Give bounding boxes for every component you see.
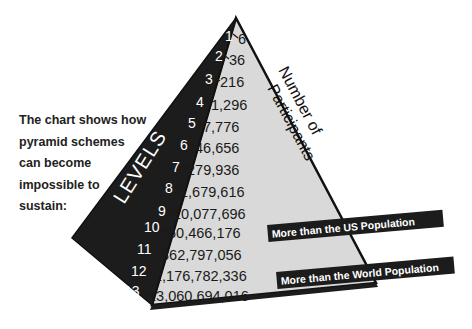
participant-count: 60,466,176 bbox=[168, 225, 241, 241]
participant-count: 279,936 bbox=[187, 162, 239, 178]
level-number: 2 bbox=[215, 48, 223, 64]
participant-count: 362,797,056 bbox=[161, 247, 242, 263]
level-number: 12 bbox=[131, 263, 147, 279]
participant-count: 2,176,782,336 bbox=[154, 268, 247, 284]
participant-count: 13,060,694,016 bbox=[148, 288, 249, 304]
level-number: 8 bbox=[165, 180, 173, 196]
participant-count: 6 bbox=[238, 31, 246, 47]
level-number: 3 bbox=[205, 71, 213, 87]
level-number: 4 bbox=[196, 94, 204, 110]
level-number: 7 bbox=[172, 159, 180, 175]
participant-count: 36 bbox=[229, 52, 245, 68]
level-number: 6 bbox=[180, 137, 188, 153]
level-number: 13 bbox=[124, 283, 140, 299]
participant-count: 1,296 bbox=[211, 97, 247, 113]
participant-count: 10,077,696 bbox=[173, 206, 246, 222]
participant-count: 7,776 bbox=[203, 119, 239, 135]
level-number: 1 bbox=[225, 28, 233, 44]
level-number: 11 bbox=[137, 241, 152, 257]
level-number: 10 bbox=[144, 219, 160, 235]
participant-count: 1,679,616 bbox=[180, 184, 245, 200]
level-number: 9 bbox=[158, 203, 166, 219]
participant-count: 46,656 bbox=[195, 140, 239, 156]
participant-count: 216 bbox=[220, 74, 244, 90]
pyramid-diagram: LEVELS Number of Participants 1 2 3 4 5 … bbox=[0, 0, 472, 329]
level-number: 5 bbox=[188, 115, 196, 131]
